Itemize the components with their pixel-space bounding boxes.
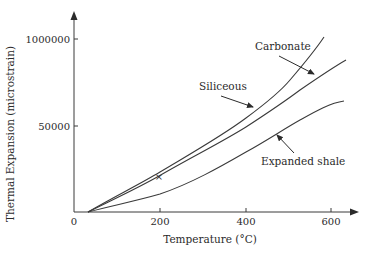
siliceous-curve — [88, 37, 324, 212]
siliceous-arrow-icon — [221, 96, 253, 107]
y-tick-1000000: 1000000 — [25, 34, 70, 45]
y-axis-arrow-icon — [71, 11, 78, 20]
thermal-expansion-chart: 1000000 50000 0 200 400 600 Temperature … — [0, 0, 377, 253]
cross-marker-icon: × — [155, 171, 163, 182]
x-tick-400: 400 — [236, 216, 255, 227]
expanded-shale-arrow-icon — [277, 135, 294, 153]
y-tick-50000: 50000 — [38, 121, 70, 132]
carbonate-arrow-icon — [279, 56, 314, 74]
x-axis-arrow-icon — [350, 209, 359, 216]
x-tick-600: 600 — [321, 216, 340, 227]
y-axis-title: Thermal Expansion (microstrain) — [4, 46, 16, 222]
y-axis — [71, 11, 79, 212]
x-tick-200: 200 — [150, 216, 169, 227]
x-tick-0: 0 — [71, 216, 77, 227]
expanded-shale-label: Expanded shale — [261, 155, 345, 167]
siliceous-label: Siliceous — [199, 80, 247, 92]
x-axis — [74, 208, 359, 216]
x-axis-title: Temperature (°C) — [163, 233, 257, 245]
carbonate-label: Carbonate — [255, 40, 311, 52]
